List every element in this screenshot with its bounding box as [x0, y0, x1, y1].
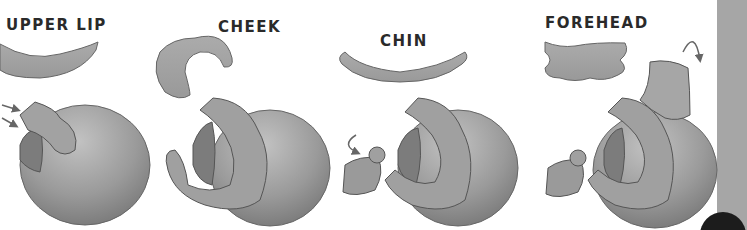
- arrow-icon: [2, 118, 16, 126]
- rotate-arrow-icon: [683, 42, 700, 60]
- panel-forehead: [545, 42, 717, 228]
- label-forehead: FOREHEAD: [545, 14, 649, 32]
- label-upper-lip: UPPER LIP: [6, 16, 107, 34]
- forehead-piece: [545, 42, 627, 81]
- label-chin: CHIN: [380, 32, 428, 50]
- chin-piece: [340, 52, 467, 82]
- chin-knob: [570, 150, 586, 166]
- cheek-piece: [156, 36, 232, 98]
- panel-upper-lip: [0, 42, 150, 225]
- arrow-icon: [2, 105, 18, 110]
- mouth-cavity: [193, 122, 215, 185]
- upper-lip-piece: [0, 42, 98, 78]
- chin-knob: [369, 147, 385, 163]
- illustration: [0, 0, 747, 230]
- panel-cheek: [156, 36, 330, 226]
- rotate-arrow-icon: [348, 135, 358, 153]
- label-cheek: CHEEK: [218, 18, 281, 36]
- panel-chin: [340, 52, 518, 226]
